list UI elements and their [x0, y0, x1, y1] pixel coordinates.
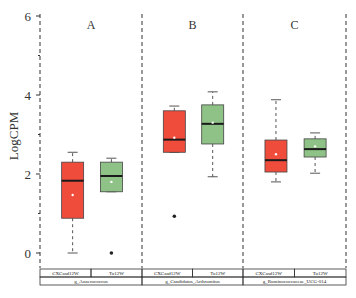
- group-label: Tu12W: [109, 271, 124, 276]
- group-label: Tu12W: [313, 271, 328, 276]
- group-label: CXCasd12W: [52, 271, 79, 276]
- y-tick-label: 4: [25, 88, 32, 103]
- panel-label: A: [87, 18, 96, 32]
- box: [304, 139, 326, 157]
- y-tick-label: 6: [25, 9, 32, 24]
- panel-label: C: [290, 18, 298, 32]
- genus-label: g_Anaerococcus: [74, 279, 107, 284]
- mean-marker: [314, 145, 316, 147]
- mean-marker: [110, 181, 112, 183]
- genus-label: g_Candidatus_Arthromitus: [165, 279, 219, 284]
- y-axis-label: LogCPM: [6, 111, 21, 160]
- box: [62, 162, 84, 218]
- mean-marker: [71, 194, 73, 196]
- chart-canvas: 0246LogCPMACXCasd12WTu12Wg_AnaerococcusB…: [0, 0, 356, 298]
- genus-label: g_Ruminococcaceae_UCG-014: [263, 279, 327, 284]
- outlier-point: [110, 251, 114, 255]
- outlier-point: [173, 214, 177, 218]
- panel-label: B: [188, 18, 196, 32]
- mean-marker: [173, 136, 175, 138]
- y-tick-label: 2: [25, 167, 32, 182]
- boxplot-chart: 0246LogCPMACXCasd12WTu12Wg_AnaerococcusB…: [0, 0, 356, 298]
- group-label: CXCasd12W: [154, 271, 181, 276]
- group-label: CXCasd12W: [255, 271, 282, 276]
- box: [163, 111, 185, 152]
- mean-marker: [275, 153, 277, 155]
- box: [265, 140, 287, 172]
- y-tick-label: 0: [25, 246, 32, 261]
- mean-marker: [212, 121, 214, 123]
- group-label: Tu12W: [210, 271, 225, 276]
